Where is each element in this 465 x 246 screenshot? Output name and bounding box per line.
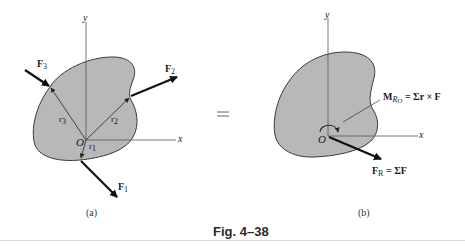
origin-label-b: O <box>318 134 326 145</box>
x-axis-label-a: x <box>178 134 182 144</box>
r3-label: r3 <box>59 115 66 126</box>
r1-label: r1 <box>89 142 96 153</box>
diagram-canvas <box>0 0 465 246</box>
panel-b <box>274 18 418 159</box>
moment-resultant-label: MRO = Σr × F <box>383 92 441 105</box>
f2-force-arrow <box>131 77 177 96</box>
figure-caption: Fig. 4–38 <box>213 224 269 239</box>
panel-b-sublabel: (b) <box>358 207 370 218</box>
equals-sign <box>217 112 229 116</box>
bottom-rule <box>0 240 465 241</box>
x-axis-label-b: x <box>419 130 423 140</box>
origin-label-a: O <box>76 137 84 148</box>
panel-a-sublabel: (a) <box>86 207 97 218</box>
y-axis-label-b: y <box>325 10 329 20</box>
resultant-force-label: FR = ΣF <box>372 166 407 178</box>
y-axis-label-a: y <box>83 13 87 23</box>
r2-label: r2 <box>111 115 118 126</box>
f2-label: F2 <box>165 64 175 76</box>
f1-label: F1 <box>118 182 128 194</box>
f3-force-arrow <box>25 70 49 86</box>
panel-a <box>25 22 177 197</box>
rigid-body-a <box>33 57 137 161</box>
f3-label: F3 <box>37 59 47 71</box>
f1-force-arrow <box>81 161 117 197</box>
